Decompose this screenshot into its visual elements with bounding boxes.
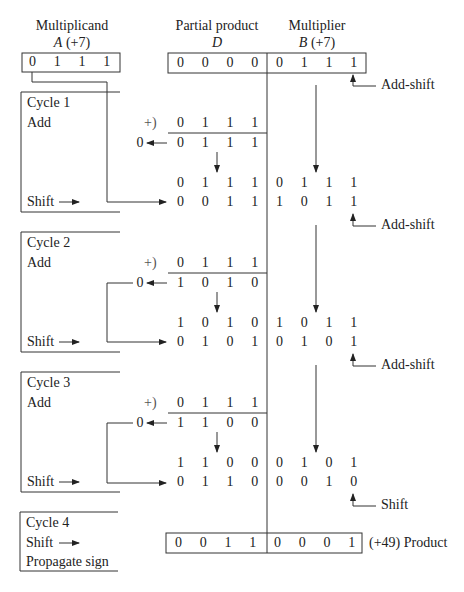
d-bit: 0 xyxy=(218,55,243,71)
multiplier-register-label: B (+7) xyxy=(267,35,367,51)
multiplier-value: (+7) xyxy=(311,35,335,50)
d-bit: 0 xyxy=(242,55,267,71)
bit: 0 xyxy=(168,115,193,131)
propagate-sign-label: Propagate sign xyxy=(26,554,109,570)
bit: 1 xyxy=(292,455,317,471)
bit: 1 xyxy=(193,474,218,490)
cycle-3: Cycle 3 Add Shift +) 0 1 1 1 0 1 1 0 0 1… xyxy=(0,372,464,492)
bit: 0 xyxy=(218,334,243,350)
carry-bit: 0 xyxy=(134,135,146,151)
after-shift-bits: 0 1 0 1 0 1 0 1 xyxy=(168,334,366,350)
add-sign: +) xyxy=(144,255,157,271)
cycle-label: Cycle 3 xyxy=(27,375,70,391)
action-4-marker-arrow-icon xyxy=(353,494,376,506)
bit: 1 xyxy=(317,474,342,490)
action-3-marker-arrow-icon xyxy=(353,354,376,366)
bit: 1 xyxy=(339,535,364,551)
bit: 1 xyxy=(168,415,193,431)
shift-step-label: Shift xyxy=(27,194,54,210)
multiplicand-register-name: A xyxy=(54,35,63,50)
action-label-2: Add-shift xyxy=(381,217,435,233)
action-2-marker-arrow-icon xyxy=(353,214,376,226)
carry-bit: 0 xyxy=(134,415,146,431)
cycle-2: Cycle 2 Add Shift +) 0 1 1 1 0 1 0 1 0 1… xyxy=(0,232,464,352)
bit: 1 xyxy=(242,175,267,191)
before-shift-bits: 1 1 0 0 0 1 0 1 xyxy=(168,455,366,471)
bit: 0 xyxy=(290,535,315,551)
bit: 1 xyxy=(341,315,366,331)
bit: 1 xyxy=(317,175,342,191)
bit: 1 xyxy=(242,194,267,210)
partial-product-register-name: D xyxy=(167,35,267,51)
bit: 0 xyxy=(341,474,366,490)
after-shift-bits: 0 1 1 0 0 0 1 0 xyxy=(168,474,366,490)
bit: 1 xyxy=(193,455,218,471)
bit: 0 xyxy=(267,474,292,490)
bit: 1 xyxy=(193,175,218,191)
bit: 1 xyxy=(218,115,243,131)
bit: 0 xyxy=(168,135,193,151)
add-step-label: Add xyxy=(27,255,51,271)
bit: 1 xyxy=(240,535,265,551)
bit: 0 xyxy=(242,415,267,431)
before-shift-bits: 1 0 1 0 1 0 1 1 xyxy=(168,315,366,331)
addend-bits: 0 1 1 1 xyxy=(168,255,267,271)
bit: 0 xyxy=(191,535,216,551)
bit: 0 xyxy=(20,54,45,70)
shift-step-label: Shift xyxy=(27,474,54,490)
bit: 1 xyxy=(242,135,267,151)
bit: 1 xyxy=(193,255,218,271)
bit: 0 xyxy=(265,535,290,551)
action-label-1: Add-shift xyxy=(381,77,435,93)
bit: 0 xyxy=(267,334,292,350)
bit: 1 xyxy=(70,54,95,70)
bit: 0 xyxy=(168,334,193,350)
bit: 1 xyxy=(267,315,292,331)
b-bit: 1 xyxy=(317,55,342,71)
bit: 1 xyxy=(168,275,193,291)
bit: 0 xyxy=(168,194,193,210)
add-step-label: Add xyxy=(27,115,51,131)
bit: 0 xyxy=(193,315,218,331)
action-label-4: Shift xyxy=(381,497,408,513)
bit: 1 xyxy=(317,315,342,331)
product-label: (+49) Product xyxy=(369,535,447,551)
bit: 1 xyxy=(193,135,218,151)
bit: 0 xyxy=(218,415,243,431)
bit: 0 xyxy=(193,194,218,210)
bit: 0 xyxy=(242,275,267,291)
bit: 0 xyxy=(242,455,267,471)
bit: 0 xyxy=(267,455,292,471)
bit: 0 xyxy=(317,455,342,471)
shift-step-label: Shift xyxy=(26,535,53,551)
bit: 1 xyxy=(168,455,193,471)
add-sign: +) xyxy=(144,395,157,411)
bit: 1 xyxy=(317,194,342,210)
multiplicand-bits: 0 1 1 1 xyxy=(20,54,119,70)
bit: 1 xyxy=(242,115,267,131)
bit: 1 xyxy=(341,194,366,210)
b-bit: 0 xyxy=(267,55,292,71)
bit: 1 xyxy=(242,255,267,271)
bit: 0 xyxy=(292,194,317,210)
bit: 0 xyxy=(166,535,191,551)
bit: 0 xyxy=(168,474,193,490)
cycle-label: Cycle 2 xyxy=(27,235,70,251)
action-label-3: Add-shift xyxy=(381,357,435,373)
bit: 1 xyxy=(341,334,366,350)
bit: 0 xyxy=(317,334,342,350)
bit: 0 xyxy=(168,395,193,411)
multiplier-register-name: B xyxy=(299,35,308,50)
bit: 1 xyxy=(218,194,243,210)
bit: 0 xyxy=(242,315,267,331)
partial-product-title: Partial product xyxy=(167,18,267,34)
b-bit: 1 xyxy=(341,55,366,71)
bit: 1 xyxy=(218,135,243,151)
bit: 1 xyxy=(45,54,70,70)
sum-bits: 1 1 0 0 xyxy=(168,415,267,431)
bit: 1 xyxy=(218,175,243,191)
bit: 1 xyxy=(292,175,317,191)
bit: 1 xyxy=(218,275,243,291)
bit: 1 xyxy=(193,395,218,411)
bit: 1 xyxy=(168,315,193,331)
